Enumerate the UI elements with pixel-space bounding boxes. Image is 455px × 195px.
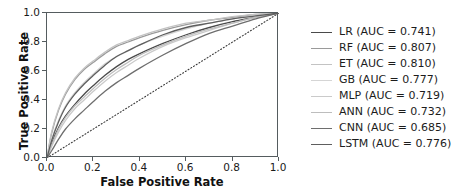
legend-item-rf[interactable]: RF (AUC = 0.807)	[311, 40, 451, 56]
legend-swatch-gb	[311, 80, 332, 81]
legend-swatch-cnn	[311, 128, 332, 129]
legend-item-cnn[interactable]: CNN (AUC = 0.685)	[311, 120, 451, 136]
legend-item-lstm[interactable]: LSTM (AUC = 0.776)	[311, 136, 451, 152]
legend-label-cnn: CNN (AUC = 0.685)	[339, 120, 446, 136]
y-axis-label: True Positive Rate	[17, 16, 31, 166]
legend-label-gb: GB (AUC = 0.777)	[339, 72, 438, 88]
legend-label-lstm: LSTM (AUC = 0.776)	[339, 136, 451, 152]
legend-label-mlp: MLP (AUC = 0.719)	[339, 88, 444, 104]
y-tick-mark	[42, 157, 46, 158]
legend-label-lr: LR (AUC = 0.741)	[339, 24, 436, 40]
x-tick-label: 1.0	[270, 161, 287, 173]
legend-label-rf: RF (AUC = 0.807)	[339, 40, 436, 56]
x-tick-label: 0.8	[223, 161, 240, 173]
y-tick-mark	[42, 12, 46, 13]
x-tick-label: 0.0	[38, 161, 55, 173]
legend-swatch-et	[311, 64, 332, 65]
legend-swatch-lstm	[311, 144, 332, 145]
x-tick-label: 0.4	[130, 161, 147, 173]
plot-area	[46, 12, 278, 157]
legend-item-gb[interactable]: GB (AUC = 0.777)	[311, 72, 451, 88]
legend: LR (AUC = 0.741)RF (AUC = 0.807)ET (AUC …	[311, 24, 451, 152]
legend-swatch-ann	[311, 112, 332, 113]
legend-item-et[interactable]: ET (AUC = 0.810)	[311, 56, 451, 72]
y-tick-mark	[42, 70, 46, 71]
x-tick-label: 0.2	[84, 161, 101, 173]
y-tick-mark	[42, 99, 46, 100]
legend-item-lr[interactable]: LR (AUC = 0.741)	[311, 24, 451, 40]
y-tick-mark	[42, 41, 46, 42]
legend-item-ann[interactable]: ANN (AUC = 0.732)	[311, 104, 451, 120]
legend-label-ann: ANN (AUC = 0.732)	[339, 104, 446, 120]
legend-swatch-mlp	[311, 96, 332, 97]
legend-label-et: ET (AUC = 0.810)	[339, 56, 436, 72]
legend-swatch-lr	[311, 32, 332, 33]
legend-item-mlp[interactable]: MLP (AUC = 0.719)	[311, 88, 451, 104]
x-axis-label: False Positive Rate	[46, 175, 278, 189]
x-tick-label: 0.6	[177, 161, 194, 173]
legend-swatch-rf	[311, 48, 332, 49]
roc-curve-figure: 0.00.20.40.60.81.0 0.00.20.40.60.81.0 Fa…	[0, 0, 455, 195]
curves-svg	[47, 13, 279, 158]
y-tick-mark	[42, 128, 46, 129]
